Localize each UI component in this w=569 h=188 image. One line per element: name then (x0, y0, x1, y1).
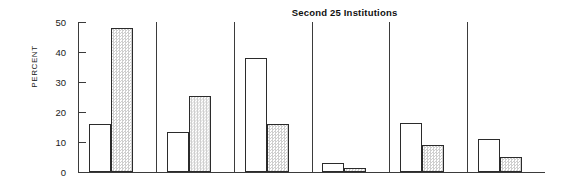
group-separator (389, 22, 390, 172)
group-separator (156, 22, 157, 172)
bar-shaded-2 (189, 96, 211, 173)
bar-shaded-3 (267, 124, 289, 172)
bar-open-5 (400, 123, 422, 173)
bar-shaded-1 (111, 28, 133, 172)
y-tick-mark (79, 82, 86, 83)
x-axis-baseline (78, 172, 545, 173)
y-tick-mark (79, 22, 86, 23)
y-tick-label: 50 (55, 17, 66, 28)
y-tick-mark (79, 142, 86, 143)
plot-area: 01020304050 (78, 22, 545, 172)
y-tick-label: 0 (61, 167, 66, 178)
y-tick-mark (79, 52, 86, 53)
bar-open-3 (245, 58, 267, 172)
group-separator (234, 22, 235, 172)
y-tick-label: 10 (55, 137, 66, 148)
chart-title: Second 25 Institutions (60, 7, 569, 18)
group-separator (467, 22, 468, 172)
bar-chart: Second 25 Institutions PERCENT 010203040… (0, 0, 569, 188)
y-tick-mark (79, 172, 86, 173)
y-axis-label: PERCENT (30, 27, 39, 107)
bar-open-6 (478, 139, 500, 172)
y-axis-line (78, 22, 79, 172)
y-tick-label: 20 (55, 107, 66, 118)
bar-shaded-5 (422, 145, 444, 172)
bar-open-4 (322, 163, 344, 172)
y-tick-label: 40 (55, 47, 66, 58)
group-separator (312, 22, 313, 172)
bar-open-1 (89, 124, 111, 172)
y-tick-label: 30 (55, 77, 66, 88)
bar-shaded-4 (344, 168, 366, 173)
bar-shaded-6 (500, 157, 522, 172)
bar-open-2 (167, 132, 189, 173)
y-tick-mark (79, 112, 86, 113)
